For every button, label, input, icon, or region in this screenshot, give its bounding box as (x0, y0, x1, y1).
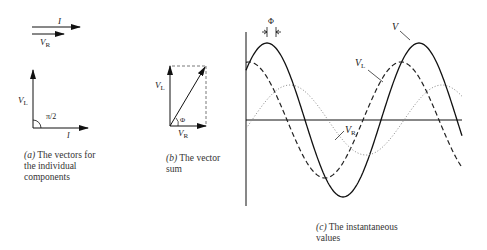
vr-label: VR (178, 128, 189, 140)
vl-label: VL (155, 80, 165, 92)
panel-a-vectors: I VR VL π/2 I (18, 16, 88, 140)
phase-label: Φ (180, 116, 185, 124)
current-label: I (57, 16, 62, 26)
vr-label: VR (40, 37, 51, 49)
caption-a: (a) The vectors for the individual compo… (24, 150, 99, 183)
v-label: V (392, 21, 400, 32)
panel-b-vector-sum: Φ VL VR (155, 66, 206, 140)
panel-c-waveforms: Φ V VL VR (246, 17, 462, 206)
right-angle-arc (33, 120, 41, 128)
vr-label: VR (345, 124, 356, 137)
resultant-arrow (170, 67, 205, 126)
angle-label: π/2 (46, 112, 56, 121)
phasor-diagram: I VR VL π/2 I Φ VL VR Φ V VL (0, 0, 487, 250)
phase-label: Φ (268, 17, 274, 26)
phase-marker (262, 30, 281, 34)
vl-label: VL (18, 95, 28, 107)
vl-label: VL (355, 57, 365, 70)
caption-c: (c) The instantaneous values (316, 222, 406, 244)
current-label-2: I (66, 131, 70, 140)
caption-b: (b) The vector sum (166, 153, 228, 175)
phase-arc (176, 118, 178, 126)
